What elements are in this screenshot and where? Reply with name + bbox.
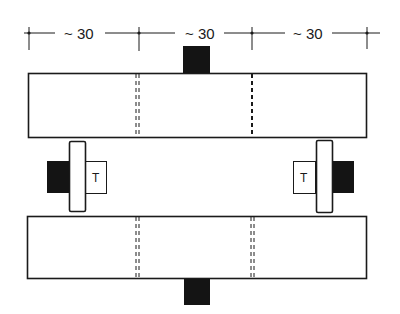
left-load-block bbox=[47, 161, 69, 193]
top-beam bbox=[29, 74, 367, 138]
dimension-label-1: ~ 30 bbox=[64, 25, 94, 42]
bottom-beam bbox=[28, 217, 367, 279]
left-post bbox=[70, 142, 86, 212]
bottom-load-block bbox=[184, 279, 210, 305]
dimension-label-3: ~ 30 bbox=[293, 25, 323, 42]
right-post bbox=[317, 141, 333, 213]
right-t-label: T bbox=[300, 171, 308, 185]
top-load-block bbox=[183, 46, 210, 74]
diagram-canvas: ~ 30 ~ 30 ~ 30 T T bbox=[0, 0, 400, 314]
dimension-label-2: ~ 30 bbox=[185, 25, 215, 42]
right-load-block bbox=[332, 161, 354, 193]
left-t-label: T bbox=[92, 171, 100, 185]
